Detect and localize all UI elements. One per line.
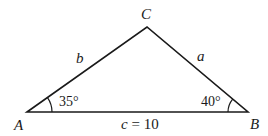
triangle-svg: C A B b a c = 10 35° 40° [0, 0, 268, 136]
angle-label-b: 40° [201, 94, 221, 109]
side-label-b: b [76, 50, 84, 66]
angle-arc-a [48, 98, 53, 112]
triangle-diagram: C A B b a c = 10 35° 40° [0, 0, 268, 136]
angle-label-a: 35° [59, 94, 79, 109]
side-label-c: c = 10 [121, 116, 159, 132]
vertex-label-c: C [141, 6, 152, 22]
vertex-label-b: B [250, 116, 259, 132]
side-label-a: a [197, 48, 205, 64]
vertex-label-a: A [13, 117, 24, 133]
angle-arc-b [228, 99, 233, 112]
